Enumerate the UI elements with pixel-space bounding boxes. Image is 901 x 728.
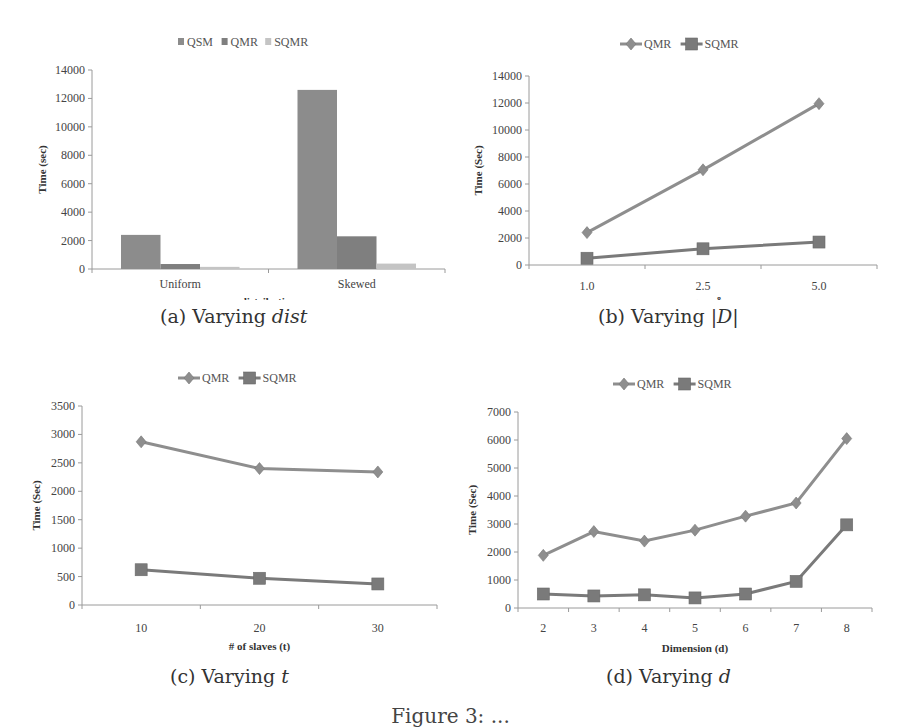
bar-qmr bbox=[337, 236, 377, 269]
x-tick-label: Skewed bbox=[338, 277, 376, 291]
x-tick-label: 5 bbox=[692, 621, 698, 635]
y-tick-label: 1500 bbox=[51, 513, 75, 527]
x-tick-label: 8 bbox=[844, 621, 850, 635]
bar-qsm bbox=[121, 235, 161, 269]
legend-label: QMR bbox=[202, 371, 229, 385]
caption-c: (c) Varying t bbox=[170, 665, 289, 687]
y-tick-label: 1000 bbox=[487, 573, 511, 587]
legend-label: QMR bbox=[644, 37, 671, 51]
x-axis-title: |D|(x 108) bbox=[681, 296, 725, 301]
y-tick-label: 12000 bbox=[55, 91, 85, 105]
legend-label: SQMR bbox=[698, 377, 732, 391]
y-tick-label: 6000 bbox=[498, 177, 522, 191]
legend-label: SQMR bbox=[274, 35, 308, 49]
x-axis-title: # of slaves (t) bbox=[229, 640, 291, 653]
bar-sqmr bbox=[200, 267, 240, 269]
bar-qsm bbox=[298, 90, 338, 269]
y-tick-label: 0 bbox=[79, 262, 85, 276]
legend-label: SQMR bbox=[263, 371, 297, 385]
series-line-qmr bbox=[543, 439, 846, 556]
x-tick-label: 2.5 bbox=[696, 279, 711, 293]
y-tick-label: 4000 bbox=[61, 205, 85, 219]
y-tick-label: 4000 bbox=[487, 489, 511, 503]
caption-b: (b) Varying |D| bbox=[598, 305, 739, 327]
legend-label: SQMR bbox=[705, 37, 739, 51]
y-tick-label: 12000 bbox=[492, 96, 522, 110]
x-tick-label: 2 bbox=[540, 621, 546, 635]
y-tick-label: 3000 bbox=[51, 427, 75, 441]
x-axis-title: distribution bbox=[241, 295, 297, 300]
chart-b: 020004000600080001000012000140001.02.55.… bbox=[450, 0, 901, 300]
x-tick-label: 7 bbox=[793, 621, 799, 635]
y-tick-label: 10000 bbox=[55, 120, 85, 134]
caption-a: (a) Varying dist bbox=[160, 305, 307, 327]
y-tick-label: 2000 bbox=[498, 231, 522, 245]
caption-d: (d) Varying d bbox=[606, 665, 731, 687]
chart-c: 0500100015002000250030003500102030# of s… bbox=[0, 360, 450, 660]
y-axis-title: Time (Sec) bbox=[30, 480, 43, 531]
x-tick-label: 10 bbox=[135, 621, 147, 635]
y-tick-label: 6000 bbox=[61, 177, 85, 191]
y-tick-label: 2000 bbox=[61, 234, 85, 248]
y-tick-label: 3500 bbox=[51, 399, 75, 413]
y-tick-label: 5000 bbox=[487, 461, 511, 475]
bar-sqmr bbox=[377, 264, 417, 269]
legend-label: QSM bbox=[187, 35, 213, 49]
x-tick-label: 3 bbox=[591, 621, 597, 635]
caption-b-prefix: (b) Varying bbox=[598, 305, 711, 327]
caption-d-var: d bbox=[719, 665, 731, 687]
y-axis-title: Time (Sec) bbox=[466, 485, 479, 536]
y-axis-title: Time (sec) bbox=[36, 145, 49, 194]
x-tick-label: 5.0 bbox=[812, 279, 827, 293]
x-tick-label: 4 bbox=[641, 621, 647, 635]
caption-a-var: dist bbox=[272, 305, 308, 327]
legend-swatch bbox=[265, 38, 271, 45]
bar-qmr bbox=[161, 264, 201, 269]
chart-d: 010002000300040005000600070002345678Dime… bbox=[450, 360, 901, 660]
chart-a: 02000400060008000100001200014000UniformS… bbox=[0, 0, 450, 300]
y-tick-label: 3000 bbox=[487, 517, 511, 531]
y-tick-label: 0 bbox=[516, 258, 522, 272]
legend-swatch bbox=[222, 38, 228, 45]
figure-caption: Figure 3: ... bbox=[0, 704, 901, 728]
caption-c-var: t bbox=[281, 665, 289, 687]
y-tick-label: 0 bbox=[505, 601, 511, 615]
caption-c-prefix: (c) Varying bbox=[170, 665, 281, 687]
y-tick-label: 2000 bbox=[51, 484, 75, 498]
y-axis-title: Time (Sec) bbox=[472, 145, 485, 196]
y-tick-label: 2000 bbox=[487, 545, 511, 559]
y-tick-label: 10000 bbox=[492, 123, 522, 137]
caption-d-prefix: (d) Varying bbox=[606, 665, 719, 687]
y-tick-label: 8000 bbox=[498, 150, 522, 164]
legend-label: QMR bbox=[637, 377, 664, 391]
y-tick-label: 4000 bbox=[498, 204, 522, 218]
legend-label: QMR bbox=[231, 35, 258, 49]
caption-a-prefix: (a) Varying bbox=[160, 305, 272, 327]
y-tick-label: 8000 bbox=[61, 148, 85, 162]
x-tick-label: 1.0 bbox=[580, 279, 595, 293]
y-tick-label: 14000 bbox=[492, 69, 522, 83]
y-tick-label: 500 bbox=[57, 570, 75, 584]
legend-swatch bbox=[178, 38, 184, 45]
y-tick-label: 14000 bbox=[55, 63, 85, 77]
y-tick-label: 7000 bbox=[487, 405, 511, 419]
y-tick-label: 1000 bbox=[51, 541, 75, 555]
x-tick-label: 30 bbox=[372, 621, 384, 635]
caption-b-var: |D| bbox=[711, 305, 739, 327]
x-tick-label: Uniform bbox=[160, 277, 202, 291]
y-tick-label: 2500 bbox=[51, 456, 75, 470]
x-tick-label: 6 bbox=[743, 621, 749, 635]
x-axis-title: Dimension (d) bbox=[662, 642, 729, 655]
y-tick-label: 6000 bbox=[487, 433, 511, 447]
y-tick-label: 0 bbox=[69, 598, 75, 612]
x-tick-label: 20 bbox=[254, 621, 266, 635]
